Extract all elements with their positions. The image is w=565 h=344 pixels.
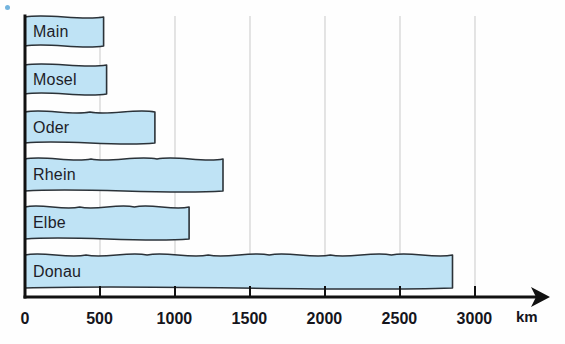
- x-tick-label-1500: 1500: [232, 311, 268, 327]
- x-tick-label-2500: 2500: [382, 311, 418, 327]
- river-length-bar-chart: MainMoselOderRheinElbeDonau 050010001500…: [0, 0, 565, 344]
- bar-donau[interactable]: [25, 254, 453, 289]
- chart-plot-area: [0, 0, 565, 344]
- bar-label-main: Main: [33, 24, 68, 40]
- bar-label-donau: Donau: [33, 264, 81, 280]
- bar-label-mosel: Mosel: [33, 72, 77, 88]
- x-tick-label-500: 500: [86, 311, 113, 327]
- x-tick-label-1000: 1000: [157, 311, 193, 327]
- bar-label-oder: Oder: [33, 120, 69, 136]
- x-tick-label-2000: 2000: [307, 311, 343, 327]
- bar-label-elbe: Elbe: [33, 215, 66, 231]
- x-tick-label-0: 0: [20, 311, 29, 327]
- axis-unit-label: km: [516, 309, 538, 324]
- x-tick-label-3000: 3000: [457, 311, 493, 327]
- bar-label-rhein: Rhein: [33, 167, 76, 183]
- bars-group: [25, 16, 453, 289]
